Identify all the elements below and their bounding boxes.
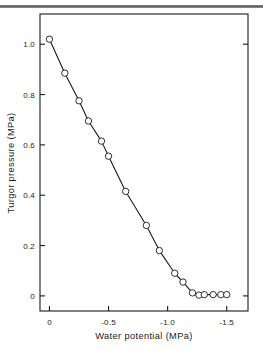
series-line (49, 39, 226, 295)
x-tick-label: 0 (47, 318, 52, 327)
data-point-marker (156, 247, 162, 253)
x-tick-label: -0.5 (101, 318, 116, 327)
plot-frame (40, 14, 248, 311)
data-point-marker (62, 70, 68, 76)
x-axis-ticks (49, 306, 226, 311)
y-tick-label: 0.6 (23, 141, 35, 150)
data-point-marker (76, 98, 82, 104)
data-point-marker (201, 291, 207, 297)
data-point-marker (180, 279, 186, 285)
y-tick-label: 0.8 (23, 91, 35, 100)
data-point-marker (46, 36, 52, 42)
y-axis-ticks (40, 44, 248, 296)
y-axis-tick-labels: 00.20.40.60.81.0 (23, 40, 35, 301)
data-point-marker (98, 138, 104, 144)
chart-svg: 0-0.5-1.0-1.5 00.20.40.60.81.0 Water pot… (0, 0, 263, 350)
y-tick-label: 0.2 (23, 242, 35, 251)
y-tick-label: 0 (30, 292, 35, 301)
x-tick-label: -1.0 (160, 318, 175, 327)
y-axis-label: Turgor pressure (MPa) (6, 112, 16, 213)
data-point-marker (189, 290, 195, 296)
data-point-marker (218, 291, 224, 297)
x-tick-label: -1.5 (219, 318, 234, 327)
data-point-marker (105, 153, 111, 159)
data-point-marker (143, 222, 149, 228)
data-point-marker (85, 118, 91, 124)
y-tick-label: 0.4 (23, 191, 35, 200)
data-point-marker (172, 270, 178, 276)
chart-figure: 0-0.5-1.0-1.5 00.20.40.60.81.0 Water pot… (0, 0, 263, 350)
x-axis-label: Water potential (MPa) (95, 331, 192, 341)
data-point-marker (122, 188, 128, 194)
series-markers (46, 36, 230, 298)
data-point-marker (210, 291, 216, 297)
x-axis-tick-labels: 0-0.5-1.0-1.5 (47, 318, 234, 327)
figure-page: 0-0.5-1.0-1.5 00.20.40.60.81.0 Water pot… (0, 0, 263, 350)
data-point-marker (224, 291, 230, 297)
y-tick-label: 1.0 (23, 40, 35, 49)
